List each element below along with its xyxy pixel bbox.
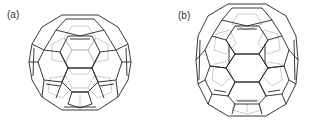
c60-molecule bbox=[29, 15, 131, 110]
fullerene-diagrams bbox=[0, 0, 309, 120]
c70-molecule bbox=[196, 4, 298, 116]
